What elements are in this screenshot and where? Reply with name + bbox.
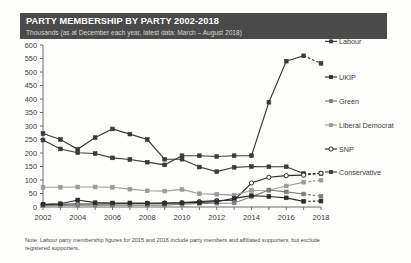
series-liberal-democrat bbox=[41, 178, 323, 197]
data-point-marker bbox=[302, 180, 306, 184]
chart-area: 0501001502002503003504004505005506002002… bbox=[0, 39, 411, 235]
legend-label-text: Conservative bbox=[339, 168, 381, 177]
series-line-projected bbox=[304, 194, 321, 196]
legend-swatch-marker bbox=[329, 170, 333, 174]
y-axis-tick-label: 0 bbox=[33, 203, 37, 212]
y-axis-tick-label: 550 bbox=[25, 54, 37, 63]
x-axis-tick-label: 2018 bbox=[313, 213, 330, 222]
series-line bbox=[43, 56, 304, 165]
data-point-marker bbox=[232, 165, 236, 169]
data-point-marker bbox=[111, 156, 115, 160]
data-point-marker bbox=[58, 185, 62, 189]
data-point-marker bbox=[128, 201, 132, 205]
legend-item-liberal-democrat[interactable]: Liberal Democrat bbox=[325, 121, 394, 130]
data-point-marker bbox=[267, 195, 271, 199]
series-line-projected bbox=[304, 56, 321, 64]
x-axis-tick-label: 2012 bbox=[208, 213, 225, 222]
series-line bbox=[43, 129, 304, 174]
data-point-marker bbox=[197, 154, 201, 158]
series-line bbox=[43, 182, 304, 195]
data-point-marker bbox=[128, 132, 132, 136]
y-axis-tick-label: 350 bbox=[25, 108, 37, 117]
data-point-marker bbox=[249, 181, 253, 185]
x-axis-tick-label: 2002 bbox=[35, 213, 52, 222]
data-point-marker bbox=[145, 189, 149, 193]
data-point-marker bbox=[267, 175, 271, 179]
data-point-marker bbox=[58, 202, 62, 206]
x-axis-tick-label: 2004 bbox=[69, 213, 86, 222]
series-labour bbox=[41, 54, 323, 167]
legend-item-green[interactable]: Green bbox=[325, 97, 359, 106]
data-point-marker bbox=[58, 138, 62, 142]
data-point-marker bbox=[302, 54, 306, 58]
data-point-marker bbox=[250, 194, 254, 198]
data-point-marker bbox=[284, 59, 288, 63]
legend-label-text: SNP bbox=[339, 145, 354, 154]
data-point-marker bbox=[41, 132, 45, 136]
series-line-projected bbox=[304, 173, 321, 175]
data-point-marker bbox=[215, 200, 219, 204]
data-point-marker bbox=[93, 136, 97, 140]
data-point-marker bbox=[41, 185, 45, 189]
data-point-marker bbox=[302, 192, 306, 196]
chart-title: PARTY MEMBERSHIP BY PARTY 2002-2018 bbox=[26, 16, 387, 27]
data-point-marker bbox=[111, 185, 115, 189]
legend-item-conservative[interactable]: Conservative bbox=[325, 168, 381, 177]
data-point-marker bbox=[76, 147, 80, 151]
x-axis-tick-label: 2014 bbox=[243, 213, 260, 222]
chart-footnote: Note: Labour party membership figures fo… bbox=[25, 237, 325, 252]
legend-label-text: UKIP bbox=[339, 73, 356, 82]
data-point-marker bbox=[319, 194, 323, 198]
data-point-marker bbox=[267, 100, 271, 104]
data-point-marker bbox=[197, 201, 201, 205]
data-point-marker bbox=[180, 188, 184, 192]
data-point-marker bbox=[163, 201, 167, 205]
data-point-marker bbox=[76, 198, 80, 202]
data-point-marker bbox=[163, 157, 167, 161]
x-axis-tick-label: 2010 bbox=[174, 213, 191, 222]
labour-label-marker bbox=[329, 39, 333, 43]
data-point-marker bbox=[128, 158, 132, 162]
data-point-marker bbox=[180, 201, 184, 205]
data-point-marker bbox=[319, 61, 323, 65]
data-point-marker bbox=[197, 192, 201, 196]
data-point-marker bbox=[41, 138, 45, 142]
legend-item-snp[interactable]: SNP bbox=[325, 145, 354, 154]
data-point-marker bbox=[284, 184, 288, 188]
legend-item-ukip[interactable]: UKIP bbox=[325, 73, 356, 82]
x-axis-tick-label: 2016 bbox=[278, 213, 295, 222]
y-axis-tick-label: 250 bbox=[25, 135, 37, 144]
x-axis-tick-label: 2006 bbox=[104, 213, 121, 222]
y-axis-tick-label: 200 bbox=[25, 149, 37, 158]
data-point-marker bbox=[232, 196, 236, 200]
series-line bbox=[43, 196, 304, 205]
data-point-marker bbox=[215, 170, 219, 174]
data-point-marker bbox=[267, 165, 271, 169]
legend-swatch-marker bbox=[329, 75, 333, 79]
data-point-marker bbox=[250, 165, 254, 169]
legend-swatch-marker bbox=[329, 147, 333, 151]
chart-page: PARTY MEMBERSHIP BY PARTY 2002-2018 Thou… bbox=[0, 0, 411, 263]
series-line-projected bbox=[304, 180, 321, 182]
y-axis-tick-label: 400 bbox=[25, 95, 37, 104]
data-point-marker bbox=[250, 154, 254, 158]
y-axis-tick-label: 50 bbox=[29, 189, 37, 198]
data-point-marker bbox=[319, 199, 323, 203]
data-point-marker bbox=[93, 152, 97, 156]
labour-label-text: Labour bbox=[339, 39, 362, 46]
data-point-marker bbox=[128, 187, 132, 191]
data-point-marker bbox=[302, 199, 306, 203]
data-point-marker bbox=[319, 178, 323, 182]
legend-swatch-marker bbox=[329, 123, 333, 127]
data-point-marker bbox=[163, 189, 167, 193]
line-chart: 0501001502002503003504004505005506002002… bbox=[0, 39, 411, 235]
data-point-marker bbox=[58, 147, 62, 151]
legend-label-text: Liberal Democrat bbox=[339, 121, 394, 130]
chart-header-band: PARTY MEMBERSHIP BY PARTY 2002-2018 Thou… bbox=[20, 13, 387, 39]
data-point-marker bbox=[111, 127, 115, 131]
data-point-marker bbox=[302, 173, 306, 177]
data-point-marker bbox=[76, 203, 80, 207]
data-point-marker bbox=[145, 160, 149, 164]
data-point-marker bbox=[145, 201, 149, 205]
data-point-marker bbox=[250, 189, 254, 193]
